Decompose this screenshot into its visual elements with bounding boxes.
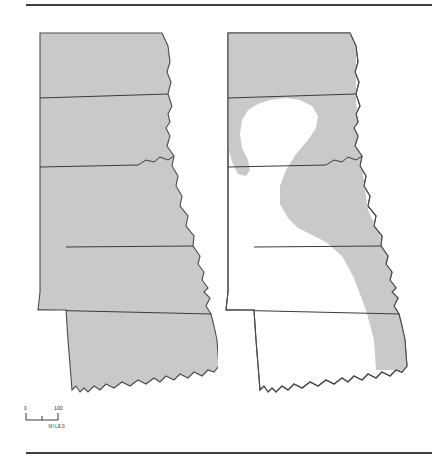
map-panel-right — [206, 10, 426, 410]
bottom-divider-rule — [26, 452, 432, 454]
figure-container: 0 100 MILES — [0, 0, 446, 466]
maps-area — [0, 10, 446, 420]
scale-bar: 0 100 MILES — [22, 405, 92, 437]
scale-tick-100: 100 — [54, 405, 63, 411]
left-map-svg — [18, 10, 218, 410]
map-panel-left — [18, 10, 218, 410]
right-map-svg — [206, 10, 426, 410]
left-map-shaded-body — [38, 33, 218, 392]
scale-tick-0: 0 — [24, 405, 27, 411]
top-divider-rule — [26, 4, 432, 6]
scale-units-label: MILES — [22, 424, 92, 429]
